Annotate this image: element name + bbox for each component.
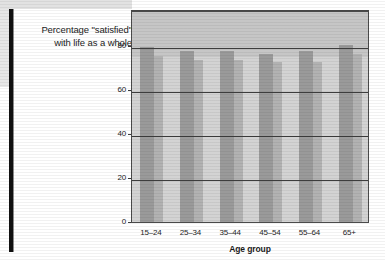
x-tick-label: 35–44: [210, 228, 250, 237]
x-tick-label: 45–54: [250, 228, 290, 237]
bar: [194, 60, 203, 222]
bars-layer: [132, 12, 368, 222]
bar-group: [291, 12, 331, 222]
bar-group: [211, 12, 251, 222]
x-axis-label: Age group: [131, 244, 369, 254]
left-vertical-rule-shadow: [13, 9, 14, 252]
y-tick-mark-80: [128, 46, 131, 47]
x-tick-label: 55–64: [290, 228, 330, 237]
bar: [234, 60, 243, 222]
page-bottom-margin: [0, 261, 385, 275]
bar: [154, 56, 163, 222]
scan-margin-band-left: [0, 9, 9, 87]
y-tick-mark-40: [128, 134, 131, 135]
y-tick-mark-20: [128, 178, 131, 179]
bar: [273, 62, 282, 222]
y-tick-label-80: 80: [104, 41, 126, 50]
y-tick-label-60: 60: [104, 85, 126, 94]
bar: [313, 62, 322, 222]
gridline-60: [132, 92, 368, 93]
scan-margin-band-top: [0, 0, 132, 9]
x-tick-label: 25–34: [171, 228, 211, 237]
chart-plot-area: [131, 10, 369, 223]
y-tick-label-40: 40: [104, 129, 126, 138]
bar: [259, 54, 273, 222]
bar-group: [330, 12, 370, 222]
page-background: Percentage "satisfied" with life as a wh…: [0, 0, 385, 275]
gridline-80: [132, 48, 368, 49]
y-tick-mark-0: [128, 222, 131, 223]
x-tick-label: 15–24: [131, 228, 171, 237]
bar: [140, 47, 154, 222]
bar-group: [251, 12, 291, 222]
y-tick-mark-60: [128, 90, 131, 91]
y-tick-label-0: 0: [104, 217, 126, 226]
gridline-20: [132, 180, 368, 181]
y-tick-label-20: 20: [104, 173, 126, 182]
gridline-40: [132, 136, 368, 137]
bar: [339, 45, 353, 222]
bar-group: [172, 12, 212, 222]
x-tick-label: 65+: [329, 228, 369, 237]
bar-group: [132, 12, 172, 222]
chart-title-line-1: Percentage "satisfied": [20, 24, 132, 37]
bar: [353, 54, 362, 222]
